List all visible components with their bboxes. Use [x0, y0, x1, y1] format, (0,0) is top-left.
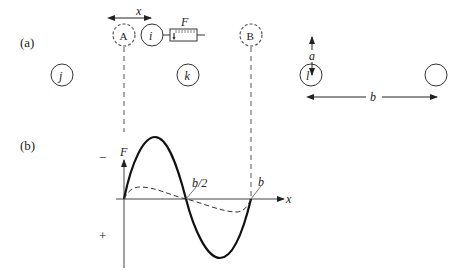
diagram-canvas: (a) x A i F B j [0, 0, 464, 274]
circle-A-label: A [120, 30, 128, 42]
spring-balance-icon [163, 29, 205, 41]
minus-sign: − [99, 150, 106, 165]
displacement-label: x [135, 4, 142, 18]
circle-neighbor [425, 64, 447, 86]
y-axis-label: F [119, 145, 128, 159]
force-label: F [180, 15, 189, 29]
panel-a: (a) x A i F B j [20, 4, 447, 199]
panel-a-label: (a) [20, 35, 34, 50]
panel-b-label: (b) [20, 138, 35, 153]
half-spacing-label: b/2 [192, 176, 207, 190]
circle-i-label: i [149, 29, 152, 43]
plus-sign: + [99, 228, 106, 243]
x-axis-label: x [285, 192, 292, 206]
circle-j-label: j [57, 69, 63, 83]
radius-label: a [309, 49, 315, 63]
circle-l [300, 64, 322, 86]
circle-B-label: B [247, 30, 254, 42]
circle-l-label: l [306, 69, 310, 83]
spacing-label: b [370, 90, 376, 104]
spacing-label-b: b [258, 175, 264, 189]
circle-k-label: k [185, 69, 191, 83]
